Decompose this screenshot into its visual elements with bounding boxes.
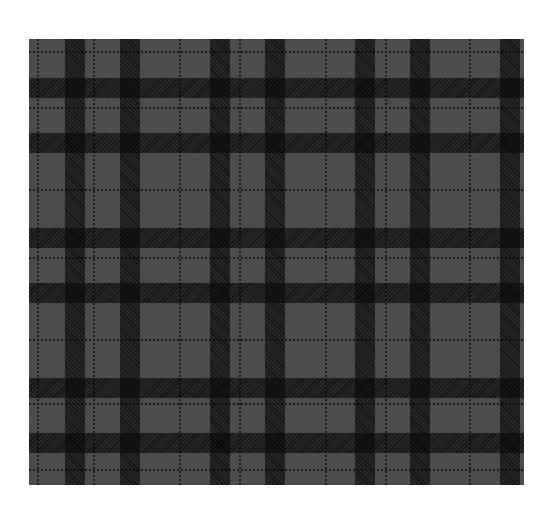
thin-vertical-stripe xyxy=(325,39,327,485)
dark-horizontal-band xyxy=(29,228,524,248)
thin-vertical-stripe xyxy=(37,39,39,485)
thin-vertical-stripe xyxy=(179,39,181,485)
thin-vertical-stripe xyxy=(239,39,241,485)
dark-horizontal-band xyxy=(29,283,524,303)
tartan-plaid-pattern xyxy=(29,39,524,485)
dark-vertical-band xyxy=(500,39,520,485)
dark-horizontal-band xyxy=(29,78,524,98)
thin-vertical-stripe xyxy=(93,39,95,485)
dark-vertical-band xyxy=(65,39,85,485)
dark-horizontal-band xyxy=(29,433,524,453)
dark-horizontal-band xyxy=(29,378,524,398)
dark-vertical-band xyxy=(210,39,230,485)
dark-vertical-band xyxy=(120,39,140,485)
dark-vertical-band xyxy=(410,39,430,485)
dark-vertical-band xyxy=(355,39,375,485)
dark-vertical-band xyxy=(265,39,285,485)
dark-horizontal-band xyxy=(29,133,524,153)
thin-vertical-stripe xyxy=(469,39,471,485)
thin-vertical-stripe xyxy=(385,39,387,485)
